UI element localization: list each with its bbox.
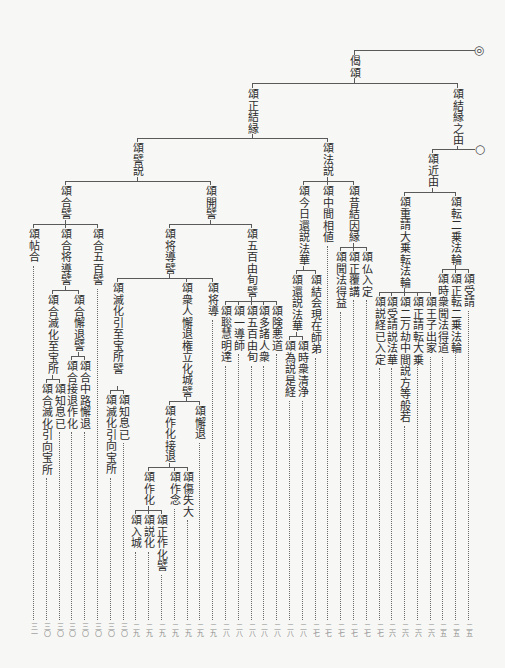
page-ref: 二五 bbox=[451, 623, 460, 637]
connector-line bbox=[252, 83, 457, 84]
outline-diagram: ◎ ○ bbox=[0, 0, 505, 668]
page-ref: 二八 bbox=[234, 623, 243, 637]
leader-dots bbox=[442, 357, 443, 620]
page-ref: 二五 bbox=[464, 623, 473, 637]
leaf-node: 頌険悪道 bbox=[270, 305, 282, 351]
leaf-node: 頌仏入定 bbox=[360, 251, 372, 297]
leaf-node: 頌正転二乗法輪 bbox=[449, 273, 461, 354]
leaf-node: 頌入城 bbox=[129, 514, 141, 549]
leaf-node: 頌知息已 bbox=[53, 383, 65, 429]
connector-line bbox=[303, 181, 353, 182]
leaf-node: 頌為説是経 bbox=[283, 340, 295, 398]
branch-node: 頌還説法華 bbox=[290, 274, 302, 332]
circle-icon: ○ bbox=[474, 143, 486, 155]
leader-dots bbox=[238, 354, 239, 620]
page-ref: 二八 bbox=[259, 623, 268, 637]
connector-line bbox=[46, 379, 59, 380]
leader-dots bbox=[187, 520, 188, 620]
connector-line bbox=[110, 390, 123, 391]
branch-node: 頌作化接退 bbox=[163, 405, 175, 463]
leaf-node: 頌説経已入定 bbox=[373, 296, 385, 365]
branch-node: 頌転二乗法輪 bbox=[449, 196, 461, 265]
branch-node: 頌結縁之由 bbox=[451, 88, 463, 146]
leaf-node: 頌合中路懈退 bbox=[78, 360, 90, 429]
leaf-node: 頌受請 bbox=[462, 273, 474, 308]
connector-line bbox=[169, 401, 199, 402]
connector-line bbox=[354, 50, 475, 51]
leader-dots bbox=[212, 320, 213, 620]
leader-dots bbox=[97, 289, 98, 620]
page-ref: 三〇 bbox=[106, 623, 115, 637]
page-ref: 二九 bbox=[195, 623, 204, 637]
leaf-node: 頌時衆清浄 bbox=[296, 340, 308, 398]
leaf-node: 頌正請転大乗 bbox=[411, 296, 423, 365]
leaf-node: 頌聞法得益 bbox=[334, 251, 346, 309]
leader-dots bbox=[302, 401, 303, 620]
branch-node: 頌合将導譬 bbox=[59, 228, 71, 286]
leader-dots bbox=[327, 246, 328, 620]
leaf-node: 頌傷失大 bbox=[181, 471, 193, 517]
connector-line bbox=[404, 192, 455, 193]
leader-dots bbox=[123, 443, 124, 620]
leader-dots bbox=[417, 357, 418, 620]
root-node: 偈頌 bbox=[348, 55, 360, 78]
branch-node: 頌正結縁 bbox=[246, 88, 258, 134]
branch-node: 頌衆人懈退権立化城譬 bbox=[180, 282, 192, 397]
page-ref: 二八 bbox=[285, 623, 294, 637]
leaf-node: 頌一導師 bbox=[232, 305, 244, 351]
leaf-node: 頌作念 bbox=[168, 471, 180, 506]
page-ref: 二七 bbox=[375, 623, 384, 637]
page-ref: 二八 bbox=[221, 623, 230, 637]
leader-dots bbox=[404, 426, 405, 620]
leaf-node: 頌将導 bbox=[206, 282, 218, 317]
leader-dots bbox=[353, 300, 354, 620]
leader-dots bbox=[366, 300, 367, 620]
page-ref: 三一 bbox=[29, 623, 38, 637]
leader-dots bbox=[174, 509, 175, 620]
connector-line bbox=[137, 138, 327, 139]
branch-node: 頌五百由旬譬 bbox=[245, 228, 257, 297]
page-ref: 二八 bbox=[272, 623, 281, 637]
page-ref: 三〇 bbox=[93, 623, 102, 637]
leaf-node: 頌結会現在師弟 bbox=[309, 274, 321, 355]
connector-line bbox=[289, 336, 302, 337]
leaf-node: 頌聡慧明達 bbox=[219, 305, 231, 363]
leaf-node: 頌正覆講 bbox=[347, 251, 359, 297]
leaf-node: 頌時衆聞法得道 bbox=[436, 273, 448, 354]
page-ref: 三〇 bbox=[42, 623, 51, 637]
connector-line bbox=[148, 467, 187, 468]
page-ref: 二八 bbox=[298, 623, 307, 637]
page-ref: 二七 bbox=[362, 623, 371, 637]
leader-dots bbox=[84, 432, 85, 620]
page-ref: 三〇 bbox=[67, 623, 76, 637]
connector-line bbox=[432, 149, 475, 150]
leaf-node: 頌二万劫中間説方等般若 bbox=[398, 296, 410, 423]
page-ref: 二九 bbox=[170, 623, 179, 637]
page-ref: 三〇 bbox=[80, 623, 89, 637]
page-ref: 二六 bbox=[387, 623, 396, 637]
branch-node: 頌合滅化至宝所 bbox=[46, 294, 58, 375]
branch-node: 頌今日還説法華 bbox=[297, 185, 309, 266]
branch-node: 頌開譬 bbox=[204, 185, 216, 220]
leaf-node: 頌正作化譬 bbox=[155, 514, 167, 572]
leader-dots bbox=[468, 311, 469, 620]
leader-dots bbox=[289, 401, 290, 620]
leaf-node: 頌滅化引向宝所 bbox=[104, 394, 116, 475]
connector-line bbox=[117, 278, 212, 279]
connector-line bbox=[296, 270, 315, 271]
leader-dots bbox=[71, 432, 72, 620]
leaf-node: 頌合滅化引向宝所 bbox=[40, 383, 52, 475]
page-ref: 二九 bbox=[183, 623, 192, 637]
branch-node: 頌法説 bbox=[321, 142, 333, 177]
leader-dots bbox=[110, 478, 111, 620]
branch-node: 頌昔結因縁 bbox=[347, 185, 359, 243]
page-ref: 二九 bbox=[157, 623, 166, 637]
leaf-node: 頌合接退作化 bbox=[65, 360, 77, 429]
leaf-node: 頌中間相値 bbox=[321, 185, 333, 243]
page-ref: 二六 bbox=[400, 623, 409, 637]
leader-dots bbox=[161, 575, 162, 620]
branch-node: 頌合懈退譬 bbox=[72, 294, 84, 352]
leader-dots bbox=[135, 552, 136, 620]
leaf-node: 頌受請説法華 bbox=[385, 296, 397, 365]
page-ref: 三〇 bbox=[119, 623, 128, 637]
